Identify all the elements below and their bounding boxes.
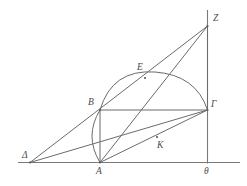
point-dot-a [99, 161, 101, 163]
point-label-k: K [157, 141, 163, 151]
point-label-e: E [137, 63, 143, 73]
point-label-theta: θ [204, 167, 209, 177]
point-dot-e [144, 77, 146, 79]
point-label-b: B [88, 98, 94, 108]
point-label-delta: Δ [22, 151, 28, 161]
segment-delta-gamma [30, 110, 208, 163]
segment-delta-z [30, 26, 208, 163]
point-dot-b [99, 109, 101, 111]
geometry-figure: Δ A B E K Γ Z θ [0, 0, 247, 186]
semicircle-b-e-gamma [100, 72, 208, 110]
geometry-canvas [0, 0, 247, 186]
point-label-z: Z [213, 14, 218, 24]
point-label-gamma: Γ [211, 100, 216, 110]
segment-a-gamma [100, 110, 208, 163]
point-dot-delta [29, 161, 31, 163]
small-arc-b-a [92, 110, 100, 163]
segment-a-z [100, 26, 208, 163]
point-dot-gamma [206, 109, 208, 111]
point-label-a: A [96, 167, 102, 177]
point-dot-k [156, 136, 158, 138]
point-dot-z [206, 25, 208, 27]
